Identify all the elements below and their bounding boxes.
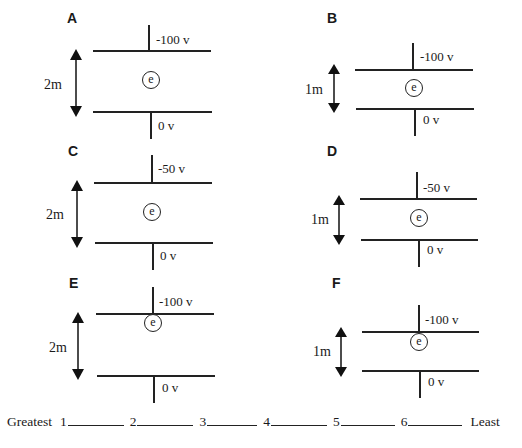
- double-arrow-icon: [70, 180, 84, 248]
- top-voltage-label: -50 v: [423, 180, 450, 196]
- bottom-voltage-label: 0 v: [427, 242, 443, 258]
- ranking-slot-4[interactable]: 4: [263, 414, 327, 430]
- bottom-voltage-label: 0 v: [158, 118, 174, 134]
- bottom-plate: [362, 370, 479, 372]
- slot-number: 5: [333, 414, 340, 430]
- top-voltage-label: -100 v: [159, 294, 193, 310]
- ranking-slot-2[interactable]: 2: [130, 414, 194, 430]
- electron: e: [144, 314, 162, 332]
- ranking-slot-6[interactable]: 6: [401, 414, 463, 430]
- ranking-end-label: Least: [470, 414, 499, 430]
- separation-label: 1m: [311, 212, 329, 228]
- answer-blank[interactable]: [408, 424, 462, 426]
- slot-number: 4: [263, 414, 270, 430]
- electron: e: [405, 79, 423, 97]
- separation-label: 1m: [305, 82, 323, 98]
- bottom-terminal-wire: [152, 242, 154, 270]
- bottom-plate: [97, 375, 215, 377]
- top-voltage-label: -50 v: [158, 161, 185, 177]
- double-arrow-icon: [71, 312, 85, 380]
- bottom-voltage-label: 0 v: [423, 112, 439, 128]
- bottom-terminal-wire: [414, 108, 416, 136]
- top-terminal-wire: [148, 25, 150, 50]
- double-arrow-icon: [334, 327, 348, 377]
- ranking-slot-3[interactable]: 3: [199, 414, 257, 430]
- slot-number: 6: [401, 414, 408, 430]
- slot-number: 1: [60, 414, 67, 430]
- bottom-plate: [361, 239, 478, 241]
- top-terminal-wire: [152, 287, 154, 313]
- electron: e: [143, 203, 161, 221]
- top-voltage-label: -100 v: [425, 312, 459, 328]
- separation-label: 2m: [49, 340, 67, 356]
- bottom-plate: [93, 111, 212, 113]
- panel-label: B: [327, 10, 337, 26]
- top-terminal-wire: [151, 155, 153, 182]
- double-arrow-icon: [327, 64, 341, 113]
- top-terminal-wire: [416, 172, 418, 198]
- panel-label: A: [67, 10, 77, 26]
- top-plate: [93, 50, 211, 52]
- double-arrow-icon: [69, 49, 83, 117]
- electron: e: [410, 209, 428, 227]
- panel-label: F: [332, 275, 341, 291]
- bottom-terminal-wire: [150, 111, 152, 139]
- slot-number: 2: [130, 414, 137, 430]
- answer-blank[interactable]: [271, 424, 327, 426]
- answer-blank[interactable]: [207, 424, 257, 426]
- double-arrow-icon: [332, 195, 346, 245]
- bottom-terminal-wire: [153, 375, 155, 403]
- bottom-voltage-label: 0 v: [160, 248, 176, 264]
- answer-blank[interactable]: [341, 424, 395, 426]
- slot-number: 3: [199, 414, 206, 430]
- ranking-start-label: Greatest: [7, 414, 52, 430]
- top-plate: [94, 182, 212, 184]
- top-plate: [355, 69, 473, 71]
- electron: e: [410, 333, 428, 351]
- bottom-voltage-label: 0 v: [428, 374, 444, 390]
- panel-label: D: [327, 143, 337, 159]
- ranking-slot-5[interactable]: 5: [333, 414, 395, 430]
- answer-blank[interactable]: [68, 424, 124, 426]
- separation-label: 2m: [44, 77, 62, 93]
- electron: e: [142, 71, 160, 89]
- ranking-row: Greatest 1 2 3 4 5 6 Least: [7, 414, 500, 430]
- bottom-terminal-wire: [418, 239, 420, 267]
- separation-label: 2m: [46, 207, 64, 223]
- top-voltage-label: -100 v: [420, 49, 454, 65]
- top-plate: [360, 198, 477, 200]
- bottom-plate: [95, 242, 213, 244]
- separation-label: 1m: [313, 344, 331, 360]
- panel-label: C: [68, 143, 78, 159]
- top-terminal-wire: [412, 43, 414, 69]
- panel-label: E: [69, 275, 78, 291]
- bottom-voltage-label: 0 v: [162, 380, 178, 396]
- bottom-terminal-wire: [419, 370, 421, 398]
- answer-blank[interactable]: [137, 424, 193, 426]
- ranking-slot-1[interactable]: 1: [60, 414, 124, 430]
- top-terminal-wire: [418, 305, 420, 331]
- top-voltage-label: -100 v: [156, 32, 190, 48]
